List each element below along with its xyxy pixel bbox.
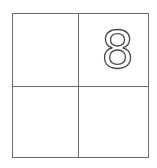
grid-cell-r1c2[interactable]: 8 <box>79 14 148 87</box>
grid-cell-r1c1[interactable] <box>13 14 79 87</box>
puzzle-grid: 8 <box>12 13 149 158</box>
cell-value: 8 <box>79 24 148 76</box>
grid-cell-r2c2[interactable] <box>79 87 148 157</box>
grid-cell-r2c1[interactable] <box>13 87 79 157</box>
